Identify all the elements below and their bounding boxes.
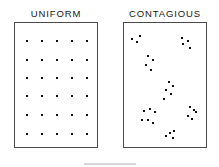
data-point (181, 37, 183, 39)
data-point (170, 93, 172, 95)
plot-frame-uniform (14, 22, 98, 148)
data-point (71, 77, 73, 79)
data-point (173, 130, 175, 132)
data-point (26, 59, 28, 61)
data-point (131, 38, 133, 40)
data-point (86, 114, 88, 116)
data-point (56, 40, 58, 42)
data-point (71, 114, 73, 116)
plot-frame-contagious (123, 22, 207, 148)
data-point (71, 133, 73, 135)
scatter-plot-uniform (15, 23, 97, 147)
data-point (147, 119, 149, 121)
data-point (71, 40, 73, 42)
panel-title-uniform: UNIFORM (14, 8, 98, 19)
data-point (41, 59, 43, 61)
data-point (41, 40, 43, 42)
footer-divider (84, 163, 136, 165)
data-point (56, 114, 58, 116)
data-point (195, 111, 197, 113)
data-point (26, 40, 28, 42)
data-point (71, 59, 73, 61)
data-point (86, 77, 88, 79)
data-point (143, 110, 145, 112)
data-point (139, 35, 141, 37)
data-point (169, 132, 171, 134)
data-point (165, 135, 167, 137)
data-point (172, 85, 174, 87)
data-point (136, 41, 138, 43)
data-point (56, 133, 58, 135)
data-point (41, 95, 43, 97)
data-point (86, 133, 88, 135)
data-point (26, 77, 28, 79)
data-point (182, 43, 184, 45)
data-point (41, 133, 43, 135)
data-point (150, 69, 152, 71)
data-point (163, 98, 165, 100)
data-point (71, 95, 73, 97)
data-point (172, 137, 174, 139)
data-point (187, 40, 189, 42)
data-point (165, 89, 167, 91)
data-point (86, 95, 88, 97)
panel-title-contagious: CONTAGIOUS (121, 8, 209, 19)
data-point (86, 40, 88, 42)
data-point (189, 106, 191, 108)
data-point (168, 81, 170, 83)
data-point (147, 55, 149, 57)
data-point (26, 114, 28, 116)
data-point (191, 118, 193, 120)
data-point (149, 108, 151, 110)
data-point (41, 114, 43, 116)
data-point (187, 115, 189, 117)
data-point (26, 133, 28, 135)
data-point (141, 119, 143, 121)
data-point (56, 95, 58, 97)
data-point (152, 122, 154, 124)
figure-root: UNIFORM CONTAGIOUS (0, 0, 219, 167)
data-point (86, 59, 88, 61)
scatter-plot-contagious (124, 23, 206, 147)
data-point (152, 59, 154, 61)
data-point (189, 47, 191, 49)
data-point (154, 111, 156, 113)
data-point (56, 59, 58, 61)
data-point (56, 77, 58, 79)
data-point (145, 64, 147, 66)
data-point (26, 95, 28, 97)
data-point (41, 77, 43, 79)
